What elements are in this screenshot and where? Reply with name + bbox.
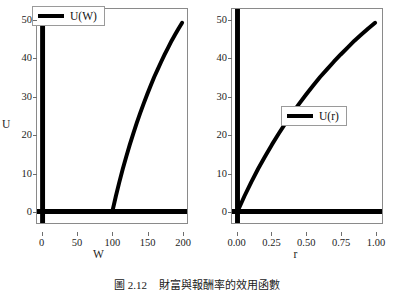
y-tick-mark: [228, 135, 232, 136]
y-tick-label: 20: [22, 130, 33, 140]
y-tick-mark: [33, 174, 37, 175]
y-tick-mark: [228, 20, 232, 21]
y-tick-mark: [33, 212, 37, 213]
x-tick-label: 50: [72, 238, 83, 248]
y-tick-label: 50: [22, 15, 33, 25]
x-tick-mark: [77, 232, 78, 236]
legend-ur: U(r): [281, 106, 347, 126]
series-uw: [112, 23, 182, 212]
figure-caption-text: 財富與報酬率的效用函數: [159, 279, 280, 290]
figure-utility-functions: 01020304050 050100150200 W U U(W) 010203…: [0, 0, 394, 290]
y-tick-label: 0: [27, 207, 32, 217]
y-axis-ticks-left: 01020304050: [8, 0, 32, 232]
y-tick-mark: [33, 20, 37, 21]
y-tick-label: 30: [217, 92, 228, 102]
y-tick-label: 50: [217, 15, 228, 25]
x-tick-label: 100: [104, 238, 120, 248]
legend-line-swatch-icon: [38, 14, 64, 18]
chart-panel-uw: 01020304050 050100150200 W U U(W): [0, 0, 197, 268]
x-tick-mark: [112, 232, 113, 236]
y-tick-mark: [228, 174, 232, 175]
y-tick-label: 40: [217, 53, 228, 63]
x-tick-label: 0: [39, 238, 44, 248]
x-tick-label: 0.00: [227, 238, 245, 248]
y-tick-mark: [228, 58, 232, 59]
plot-area-uw: [36, 8, 188, 224]
x-axis-title-right: r: [197, 248, 394, 260]
y-tick-mark: [33, 135, 37, 136]
x-tick-label: 0.25: [262, 238, 280, 248]
x-tick-mark: [306, 232, 307, 236]
y-tick-label: 0: [222, 207, 227, 217]
x-tick-mark: [237, 232, 238, 236]
x-tick-mark: [42, 232, 43, 236]
y-tick-label: 10: [22, 169, 33, 179]
y-axis-title-left: U: [2, 118, 10, 130]
y-tick-label: 20: [217, 130, 228, 140]
line-uw: [112, 23, 182, 212]
y-tick-label: 30: [22, 92, 33, 102]
legend-line-swatch-icon: [287, 114, 313, 118]
chart-panel-ur: 01020304050 0.000.250.500.751.00 r U(r): [197, 0, 394, 268]
y-tick-mark: [228, 212, 232, 213]
legend-uw: U(W): [32, 6, 105, 26]
x-axis-ticks-right: 0.000.250.500.751.00: [197, 232, 394, 246]
y-tick-mark: [33, 58, 37, 59]
x-tick-label: 0.75: [332, 238, 350, 248]
x-tick-label: 200: [175, 238, 191, 248]
y-tick-mark: [33, 97, 37, 98]
figure-caption: 圖 2.12財富與報酬率的效用函數: [0, 276, 394, 290]
x-tick-label: 1.00: [367, 238, 385, 248]
y-axis-ticks-right: 01020304050: [203, 0, 227, 232]
x-axis-ticks-left: 050100150200: [0, 232, 197, 246]
y-tick-mark: [228, 97, 232, 98]
legend-label-uw: U(W): [70, 10, 97, 22]
y-tick-label: 40: [22, 53, 33, 63]
x-tick-mark: [183, 232, 184, 236]
x-tick-label: 150: [140, 238, 156, 248]
y-tick-label: 10: [217, 169, 228, 179]
x-tick-mark: [341, 232, 342, 236]
x-tick-label: 0.50: [297, 238, 315, 248]
x-tick-mark: [148, 232, 149, 236]
legend-label-ur: U(r): [319, 110, 339, 122]
plot-svg-uw: [37, 9, 187, 223]
x-axis-title-left: W: [0, 248, 197, 260]
figure-caption-number: 圖 2.12: [114, 279, 147, 290]
x-tick-mark: [271, 232, 272, 236]
x-tick-mark: [376, 232, 377, 236]
